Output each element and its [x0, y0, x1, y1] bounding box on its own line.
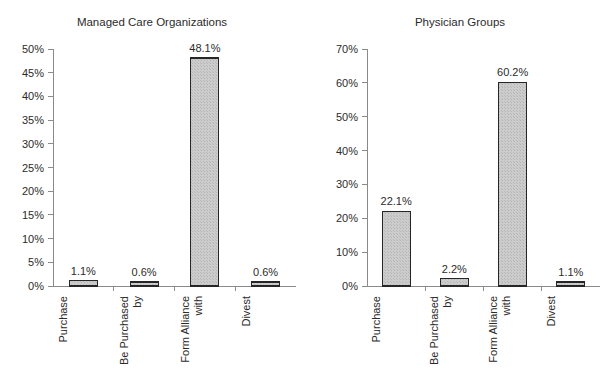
x-axis-labels-left: PurchaseBe PurchasedbyForm AlliancewithD…: [57, 296, 251, 366]
bar: [382, 211, 410, 286]
y-tick-label: 50%: [22, 43, 44, 55]
bar: [440, 279, 468, 286]
y-tick-label: 10%: [336, 246, 358, 258]
chart-title-right: Physician Groups: [415, 16, 505, 28]
x-category-label: Form Alliance: [179, 296, 191, 363]
y-tick-label: 40%: [336, 145, 358, 157]
y-tick-label: 70%: [336, 43, 358, 55]
y-tick-label: 45%: [22, 67, 44, 79]
x-category-label: Purchase: [370, 296, 382, 342]
x-category-label: Divest: [240, 296, 252, 327]
bar: [191, 58, 219, 286]
bar-value-label: 48.1%: [189, 42, 220, 54]
y-tick-label: 50%: [336, 111, 358, 123]
bar-value-label: 60.2%: [497, 66, 528, 78]
y-axis-left: 0%5%10%15%20%25%30%35%40%45%50%: [22, 43, 296, 292]
bar: [69, 281, 97, 286]
bar: [252, 282, 280, 286]
bars-group-right: 22.1%2.2%60.2%1.1%: [381, 66, 585, 286]
y-tick-label: 60%: [336, 77, 358, 89]
y-axis-right: 0%10%20%30%40%50%60%70%: [336, 43, 600, 292]
y-tick-label: 15%: [22, 209, 44, 221]
y-tick-label: 25%: [22, 162, 44, 174]
x-category-label: Be Purchased: [428, 296, 440, 365]
chart-panel-managed-care: Managed Care Organizations 0%5%10%15%20%…: [0, 0, 304, 388]
bar-value-label: 22.1%: [381, 195, 412, 207]
chart-svg-left: Managed Care Organizations 0%5%10%15%20%…: [0, 0, 304, 388]
x-category-label: Purchase: [57, 296, 69, 342]
y-tick-label: 30%: [22, 138, 44, 150]
chart-title-left: Managed Care Organizations: [77, 16, 227, 28]
y-tick-label: 40%: [22, 90, 44, 102]
x-category-label: Form Alliance: [487, 296, 499, 363]
chart-page: Managed Care Organizations 0%5%10%15%20%…: [0, 0, 608, 388]
x-category-label: by: [131, 296, 143, 308]
bar: [499, 82, 527, 286]
x-category-label: Be Purchased: [118, 296, 130, 365]
bar-value-label: 2.2%: [442, 263, 467, 275]
y-tick-label: 5%: [28, 256, 44, 268]
y-tick-label: 0%: [342, 280, 358, 292]
y-tick-label: 20%: [22, 185, 44, 197]
bar-value-label: 0.6%: [132, 266, 157, 278]
x-category-label: with: [500, 296, 512, 317]
y-tick-label: 0%: [28, 280, 44, 292]
bars-group-left: 1.1%0.6%48.1%0.6%: [69, 42, 279, 286]
y-tick-label: 30%: [336, 178, 358, 190]
chart-panel-physician-groups: Physician Groups 0%10%20%30%40%50%60%70%…: [304, 0, 608, 388]
chart-svg-right: Physician Groups 0%10%20%30%40%50%60%70%…: [304, 0, 608, 388]
x-category-label: Divest: [545, 296, 557, 327]
y-tick-label: 20%: [336, 212, 358, 224]
bar-value-label: 1.1%: [558, 266, 583, 278]
bar: [130, 282, 158, 286]
x-category-label: by: [441, 296, 453, 308]
y-tick-label: 10%: [22, 233, 44, 245]
x-category-label: with: [192, 296, 204, 317]
y-tick-label: 35%: [22, 114, 44, 126]
bar-value-label: 1.1%: [71, 265, 96, 277]
bar-value-label: 0.6%: [253, 266, 278, 278]
x-axis-labels-right: PurchaseBe PurchasedbyForm AlliancewithD…: [370, 296, 557, 366]
bar: [557, 282, 585, 286]
